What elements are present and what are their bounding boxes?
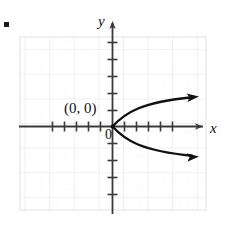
parabola-figure: [0, 0, 229, 225]
origin-label: 0: [105, 128, 112, 142]
y-axis-label: y: [98, 14, 105, 29]
x-axis-label: x: [210, 121, 217, 136]
vertex-coordinate-label: (0, 0): [64, 101, 97, 116]
